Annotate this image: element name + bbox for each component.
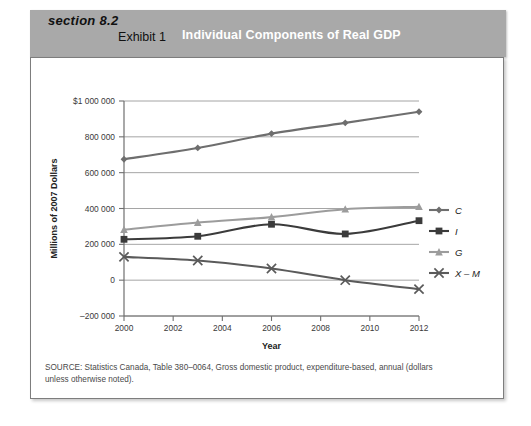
exhibit-label-column: section 8.2 Exhibit 1: [40, 13, 172, 44]
data-series-group: [119, 108, 423, 293]
y-axis-title: Millions of 2007 Dollars: [49, 158, 59, 258]
x-tick-label: 2000: [115, 323, 134, 333]
series-marker-I: [342, 231, 349, 238]
line-chart-svg: –200 0000200 000400 000600 000800 000$1 …: [31, 58, 505, 358]
y-tick-label: 200 000: [85, 239, 116, 249]
exhibit-figure: section 8.2 Exhibit 1 Individual Compone…: [30, 10, 506, 401]
chart-legend: CIGX – M: [429, 205, 480, 279]
series-marker-C: [342, 119, 349, 126]
source-line-2: unless otherwise noted).: [45, 374, 485, 386]
x-tick-label: 2010: [361, 323, 380, 333]
x-tick-label: 2004: [213, 323, 232, 333]
page-background: section 8.2 Exhibit 1 Individual Compone…: [0, 0, 531, 426]
chart-panel: –200 0000200 000400 000600 000800 000$1 …: [30, 57, 504, 399]
series-marker-I: [121, 236, 128, 243]
legend-marker-0: [436, 207, 443, 214]
y-tick-label: 600 000: [85, 168, 116, 178]
section-label: section 8.2: [40, 13, 172, 28]
x-tick-label: 2012: [410, 323, 429, 333]
legend-label-0: C: [455, 205, 462, 216]
x-axis-title: Year: [262, 341, 282, 351]
legend-label-1: I: [455, 226, 458, 237]
series-marker-I: [416, 217, 423, 224]
x-axis-ticks-group: 2000200220042006200820102012: [115, 316, 429, 333]
series-marker-C: [268, 130, 275, 137]
x-tick-label: 2006: [262, 323, 281, 333]
legend-label-2: G: [455, 247, 462, 258]
series-marker-I: [194, 233, 201, 240]
source-note: SOURCE: Statistics Canada, Table 380–006…: [45, 362, 485, 386]
exhibit-number-label: Exhibit 1: [40, 30, 172, 44]
exhibit-title: Individual Components of Real GDP: [182, 28, 401, 42]
plot-area: –200 0000200 000400 000600 000800 000$1 …: [31, 58, 505, 358]
legend-label-3: X – M: [454, 268, 480, 279]
legend-marker-1: [436, 228, 443, 235]
x-tick-label: 2008: [311, 323, 330, 333]
series-marker-C: [121, 156, 128, 163]
series-marker-I: [268, 221, 275, 228]
series-marker-C: [416, 108, 423, 115]
y-axis-ticks-group: –200 0000200 000400 000600 000800 000$1 …: [73, 96, 124, 321]
x-tick-label: 2002: [164, 323, 183, 333]
exhibit-header-band: section 8.2 Exhibit 1 Individual Compone…: [30, 10, 506, 57]
series-line-XM: [124, 257, 419, 289]
y-tick-label: $1 000 000: [73, 96, 115, 106]
y-tick-label: 0: [110, 275, 115, 285]
y-tick-label: 400 000: [85, 204, 116, 214]
source-line-1: SOURCE: Statistics Canada, Table 380–006…: [45, 362, 485, 374]
series-marker-C: [194, 145, 201, 152]
y-tick-label: 800 000: [85, 132, 116, 142]
y-tick-label: –200 000: [80, 311, 115, 321]
